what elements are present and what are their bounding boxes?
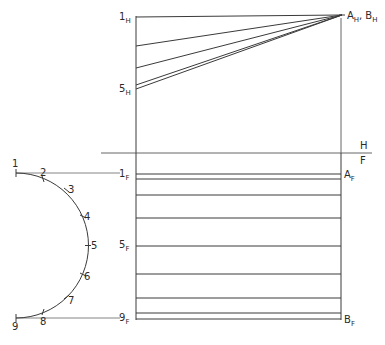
label-ah-bh: AH,BH xyxy=(347,10,377,24)
arc-label-2: 2 xyxy=(40,167,46,178)
label-af: AF xyxy=(344,169,355,183)
front-view: 1F 5F 9F AF BF xyxy=(119,153,355,328)
top-view-line-4 xyxy=(136,15,342,85)
label-5h: 5H xyxy=(119,83,131,97)
arc-label-5: 5 xyxy=(91,240,97,251)
arc-label-7: 7 xyxy=(68,295,74,306)
arc-label-1: 1 xyxy=(12,158,18,169)
arc-label-8: 8 xyxy=(40,316,46,327)
fold-label-h: H xyxy=(360,140,368,151)
semicircle-arc xyxy=(16,173,89,318)
label-5f: 5F xyxy=(119,239,129,253)
top-view-line-5 xyxy=(136,15,342,89)
arc-tick-8 xyxy=(42,309,44,315)
label-1f: 1F xyxy=(119,168,129,182)
top-view-line-1 xyxy=(136,15,342,17)
arc-label-4: 4 xyxy=(84,211,90,222)
arc-label-3: 3 xyxy=(68,184,74,195)
fold-line: H F xyxy=(101,140,372,166)
arc-label-9: 9 xyxy=(12,321,18,332)
division-arc: 1 2 3 4 5 6 7 8 9 xyxy=(12,158,97,332)
projection-diagram: 1H 5H AH,BH H F 1F 5F xyxy=(0,0,385,345)
label-9f: 9F xyxy=(119,312,129,326)
label-1h: 1H xyxy=(119,11,131,25)
arc-label-6: 6 xyxy=(84,271,90,282)
top-view: 1H 5H AH,BH xyxy=(119,10,377,153)
label-bf: BF xyxy=(344,314,355,328)
fold-label-f: F xyxy=(360,155,366,166)
